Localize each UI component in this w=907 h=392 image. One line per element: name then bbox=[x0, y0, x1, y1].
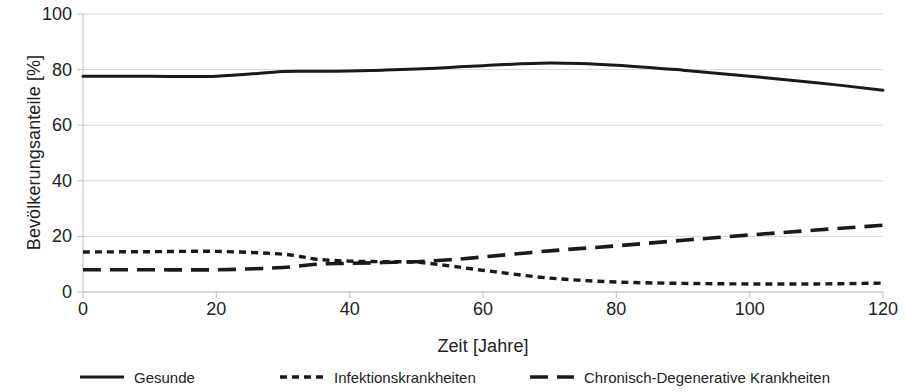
x-axis-tick-label: 100 bbox=[720, 300, 780, 318]
legend-label: Chronisch-Degenerative Krankheiten bbox=[584, 369, 830, 386]
series-line-dotted bbox=[83, 251, 883, 284]
x-axis-tick-label: 0 bbox=[53, 300, 113, 318]
dotted-line-icon bbox=[278, 370, 326, 384]
plot-area bbox=[0, 0, 907, 392]
legend-item[interactable]: Infektionskrankheiten bbox=[278, 366, 476, 388]
legend-label: Infektionskrankheiten bbox=[334, 369, 476, 386]
x-axis-title: Zeit [Jahre] bbox=[83, 336, 883, 357]
x-axis-tick-label: 60 bbox=[453, 300, 513, 318]
dashed-line-icon bbox=[528, 370, 576, 384]
chart-container: Bevölkerungsanteile [%] 100806040200 020… bbox=[0, 0, 907, 392]
legend-item[interactable]: Gesunde bbox=[78, 366, 195, 388]
x-axis-tick-label: 120 bbox=[853, 300, 907, 318]
legend-item[interactable]: Chronisch-Degenerative Krankheiten bbox=[528, 366, 830, 388]
chart-legend: GesundeInfektionskrankheitenChronisch-De… bbox=[0, 362, 907, 392]
legend-label: Gesunde bbox=[134, 369, 195, 386]
x-axis-tick-label: 40 bbox=[320, 300, 380, 318]
x-axis-tick-label: 80 bbox=[586, 300, 646, 318]
series-line-solid bbox=[83, 63, 883, 90]
solid-line-icon bbox=[78, 370, 126, 384]
x-axis-tick-label: 20 bbox=[186, 300, 246, 318]
series-line-dashed bbox=[83, 225, 883, 270]
